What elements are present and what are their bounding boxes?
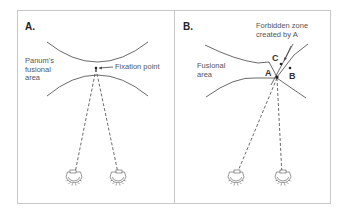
eye-icon xyxy=(228,170,244,186)
panel-b-label: B. xyxy=(183,21,193,32)
eye-icon xyxy=(110,170,126,186)
eye-icon xyxy=(66,170,82,186)
forbidden-zone-label: Forbidden zone created by A xyxy=(256,22,308,39)
point-a-dot xyxy=(275,75,278,78)
sight-line-left xyxy=(236,78,277,176)
point-a-label: A xyxy=(265,68,272,78)
fixation-arrowhead xyxy=(99,66,102,69)
fixation-point-dot xyxy=(95,67,98,70)
sight-line-left xyxy=(75,69,96,173)
horopter-lower-curve xyxy=(47,75,148,96)
sight-line-right xyxy=(277,78,282,176)
eyes xyxy=(66,170,291,186)
forbidden-zone-arrow xyxy=(285,46,291,59)
point-b-dot xyxy=(289,67,292,70)
sight-line-right xyxy=(96,69,118,173)
panums-fusional-area-label: Panum's fusional area xyxy=(25,57,54,83)
eye-icon xyxy=(275,170,291,186)
fixation-point-label: Fixation point xyxy=(115,63,160,72)
panel-a-label: A. xyxy=(25,21,35,32)
point-c-dot xyxy=(280,63,283,66)
horopter-upper-curve xyxy=(47,42,148,62)
point-b-label: B xyxy=(289,71,296,81)
fusional-area-label: Fusional area xyxy=(197,62,225,79)
point-c-label: C xyxy=(272,53,279,63)
